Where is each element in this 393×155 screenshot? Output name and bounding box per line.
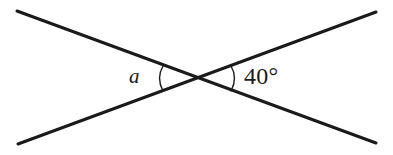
angle-arc-right [231,66,235,91]
angle-label-a: a [129,66,140,87]
angle-label-40-degrees: 40° [244,64,278,88]
geometry-figure [0,0,393,155]
angle-arc-left [160,66,164,91]
vertical-angles-diagram: a 40° [0,0,393,155]
